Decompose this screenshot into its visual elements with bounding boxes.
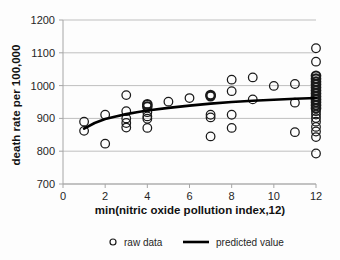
data-point bbox=[291, 128, 300, 137]
axis-lines bbox=[59, 20, 316, 188]
y-tick-label: 1100 bbox=[31, 47, 55, 59]
x-axis-label: min(nitric oxide pollution index,12) bbox=[95, 204, 286, 216]
x-tick-label: 12 bbox=[310, 190, 322, 202]
data-point bbox=[227, 87, 236, 96]
y-tick-label: 1000 bbox=[31, 80, 55, 92]
x-tick-label: 4 bbox=[144, 190, 150, 202]
raw-data-points bbox=[80, 44, 321, 158]
data-point bbox=[122, 91, 131, 100]
data-point bbox=[291, 80, 300, 89]
data-point bbox=[312, 133, 321, 142]
x-tick-label: 0 bbox=[60, 190, 66, 202]
data-point bbox=[206, 132, 215, 141]
predicted-value-line bbox=[84, 98, 316, 129]
x-tick-labels: 024681012 bbox=[60, 190, 322, 202]
y-tick-labels: 700800900100011001200 bbox=[31, 14, 55, 190]
data-point bbox=[227, 110, 236, 119]
y-tick-label: 700 bbox=[37, 178, 55, 190]
data-point bbox=[143, 124, 152, 133]
x-tick-label: 6 bbox=[186, 190, 192, 202]
x-tick-label: 10 bbox=[268, 190, 280, 202]
y-tick-label: 1200 bbox=[31, 14, 55, 26]
data-point bbox=[248, 73, 257, 82]
data-point bbox=[227, 124, 236, 133]
y-tick-label: 800 bbox=[37, 145, 55, 157]
data-point bbox=[312, 149, 321, 158]
legend-raw-data-marker bbox=[110, 239, 116, 245]
y-axis-label: death rate per 100,000 bbox=[10, 45, 22, 166]
legend-raw-data-label: raw data bbox=[124, 237, 163, 248]
legend-predicted-value-label: predicted value bbox=[216, 237, 284, 248]
data-point bbox=[227, 75, 236, 84]
data-point bbox=[164, 97, 173, 106]
data-point bbox=[312, 44, 321, 53]
legend: raw data predicted value bbox=[110, 237, 284, 248]
scatter-plot: 700800900100011001200 024681012 death ra… bbox=[0, 0, 340, 260]
data-point bbox=[312, 57, 321, 66]
x-tick-label: 8 bbox=[229, 190, 235, 202]
regression-curve bbox=[84, 98, 316, 129]
chart-container: 700800900100011001200 024681012 death ra… bbox=[0, 0, 340, 260]
x-tick-label: 2 bbox=[102, 190, 108, 202]
data-point bbox=[185, 94, 194, 103]
y-tick-label: 900 bbox=[37, 112, 55, 124]
data-point bbox=[101, 139, 110, 148]
